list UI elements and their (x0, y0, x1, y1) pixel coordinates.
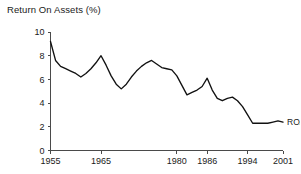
y-tick-label-6: 6 (39, 75, 44, 85)
y-axis: 0246810 (34, 27, 50, 156)
x-tick-label-1994: 1994 (238, 156, 258, 166)
x-axis-tick-labels: 195519651980198619942001 (40, 156, 293, 166)
x-tick-label-1980: 1980 (167, 156, 187, 166)
y-tick-label-2: 2 (39, 122, 44, 132)
x-tick-label-1965: 1965 (91, 156, 111, 166)
x-axis: 195519651980198619942001 (40, 151, 293, 166)
x-tick-label-1955: 1955 (40, 156, 60, 166)
y-tick-label-8: 8 (39, 51, 44, 61)
series-label-roa: ROA (287, 117, 300, 127)
y-tick-label-0: 0 (39, 146, 44, 156)
roa-line-chart: 0246810 195519651980198619942001 ROA (0, 0, 300, 174)
x-tick-label-2001: 2001 (273, 156, 293, 166)
data-series-group: ROA (51, 41, 301, 127)
y-tick-label-10: 10 (34, 27, 44, 37)
x-tick-label-1986: 1986 (197, 156, 217, 166)
y-axis-tick-labels: 0246810 (34, 27, 44, 156)
y-tick-label-4: 4 (39, 98, 44, 108)
chart-page: Return On Assets (%) 0246810 19551965198… (0, 0, 300, 174)
series-line-roa (51, 41, 284, 123)
